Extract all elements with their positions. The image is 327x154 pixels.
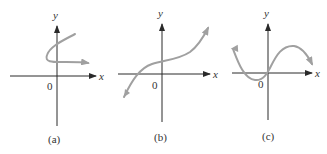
curve-c-left-arrowhead: [231, 43, 241, 53]
caption-b: (b): [154, 131, 167, 144]
origin-label-b: 0: [152, 79, 158, 91]
panel-a: x y 0 (a): [10, 9, 104, 146]
x-axis-label-c: x: [314, 67, 320, 79]
caption-c: (c): [262, 130, 275, 143]
y-axis-label-b: y: [157, 7, 163, 19]
curve-c: [233, 46, 312, 80]
figure-canvas: x y 0 (a) x y 0 (b) x y 0 (c): [0, 0, 327, 154]
curve-b: [124, 28, 208, 97]
x-axis-label-a: x: [98, 70, 104, 82]
x-axis-label-b: x: [212, 68, 218, 80]
caption-a: (a): [48, 133, 61, 146]
panel-c: x y 0 (c): [231, 7, 320, 143]
y-axis-label-a: y: [52, 9, 58, 21]
y-axis-label-c: y: [263, 7, 269, 19]
origin-label-a: 0: [47, 80, 53, 92]
panel-b: x y 0 (b): [118, 7, 218, 144]
curve-a: [46, 34, 88, 63]
